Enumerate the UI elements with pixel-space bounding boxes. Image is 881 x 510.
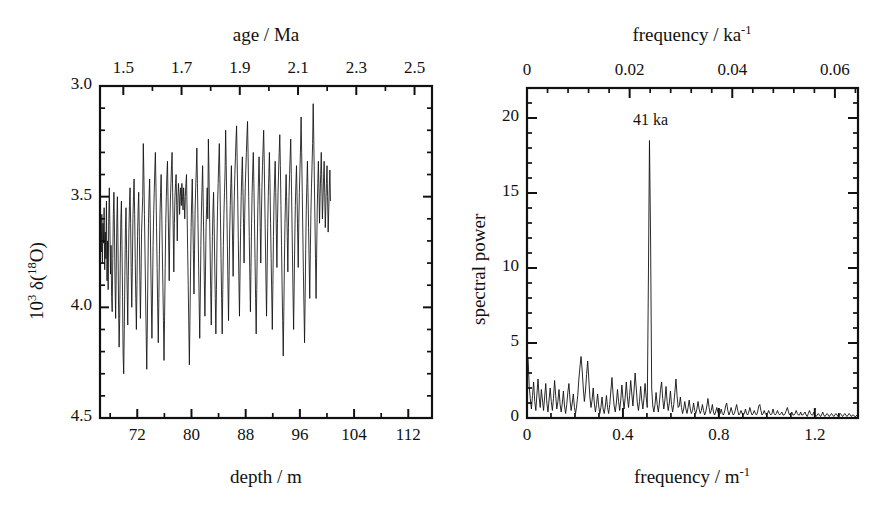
right-panel: frequency / ka-1 spectral power frequenc…: [0, 0, 881, 510]
figure-root: age / Ma 103 δ(18O) depth / m 1.51.71.92…: [0, 0, 881, 510]
right-plot-area: [0, 0, 881, 510]
